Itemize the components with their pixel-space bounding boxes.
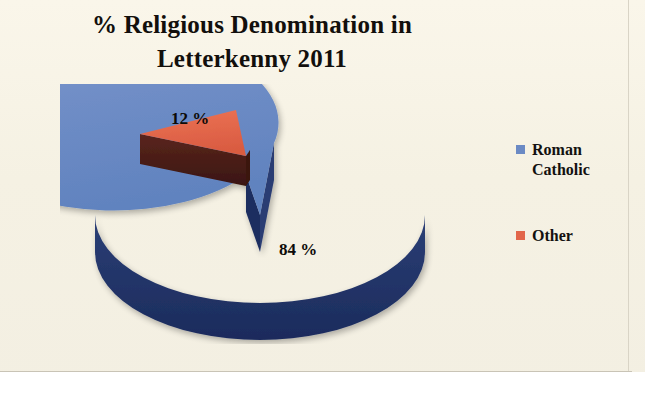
pie-data-label-roman-catholic: 84 % (279, 240, 317, 260)
pie-data-label-other: 12 % (171, 109, 209, 129)
chart-title: % Religious Denomination in Letterkenny … (28, 8, 476, 76)
pie-chart-graphic (60, 84, 460, 344)
legend-item-other[interactable]: Other (516, 226, 626, 246)
page-footer-margin (0, 372, 645, 396)
legend-label-other: Other (532, 226, 573, 246)
chart-title-line-1: % Religious Denomination in (28, 8, 476, 42)
legend-swatch-other (516, 231, 525, 240)
chart-legend: Roman Catholic Other (516, 140, 626, 292)
legend-item-roman-catholic[interactable]: Roman Catholic (516, 140, 626, 180)
chart-title-line-2: Letterkenny 2011 (28, 42, 476, 76)
legend-label-roman-catholic: Roman Catholic (532, 140, 626, 180)
legend-swatch-roman-catholic (516, 145, 525, 154)
pie-chart-plot-area: 12 % 84 % (60, 84, 460, 344)
sheet-border-right (628, 0, 629, 372)
chart-sheet: % Religious Denomination in Letterkenny … (0, 0, 645, 396)
